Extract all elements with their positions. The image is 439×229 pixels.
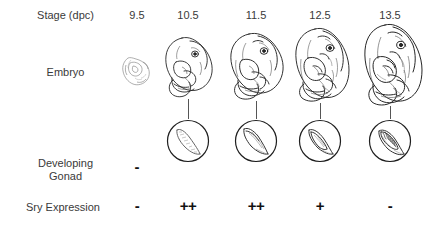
leader-line-13-5 bbox=[390, 106, 391, 119]
stage-header-10-5: 10.5 bbox=[168, 9, 208, 21]
stage-header-9-5: 9.5 bbox=[117, 9, 157, 21]
sry-value-10-5: ++ bbox=[168, 198, 208, 214]
embryo-drawing-13-5 bbox=[357, 22, 427, 110]
sry-value-12-5: + bbox=[300, 198, 340, 214]
gonad-value-9-5: - bbox=[117, 158, 157, 175]
sry-value-11-5: ++ bbox=[236, 198, 276, 214]
stage-header-12-5: 12.5 bbox=[300, 9, 340, 21]
leader-line-12-5 bbox=[320, 103, 321, 119]
row-label-sry-expression: Sry Expression bbox=[8, 201, 118, 214]
embryo-drawing-10-5 bbox=[160, 34, 218, 104]
row-label-stage: Stage (dpc) bbox=[18, 9, 113, 22]
leader-line-11-5 bbox=[256, 101, 257, 119]
embryo-drawing-12-5 bbox=[289, 26, 355, 108]
sry-value-13-5: - bbox=[370, 198, 410, 214]
gonad-circle-11-5 bbox=[234, 119, 278, 167]
stage-header-11-5: 11.5 bbox=[236, 9, 276, 21]
gonad-circle-10-5 bbox=[166, 119, 210, 167]
row-label-developing-gonad: Developing Gonad bbox=[18, 157, 113, 183]
stage-header-13-5: 13.5 bbox=[370, 9, 410, 21]
embryo-drawing-11-5 bbox=[225, 30, 289, 106]
embryo-drawing-9-5 bbox=[119, 52, 153, 96]
leader-line-10-5 bbox=[188, 99, 189, 119]
sry-expression-figure: Stage (dpc) Embryo Developing Gonad Sry … bbox=[0, 0, 439, 229]
sry-value-9-5: - bbox=[117, 198, 157, 214]
gonad-circle-12-5 bbox=[298, 119, 342, 167]
row-label-embryo: Embryo bbox=[18, 66, 113, 79]
gonad-circle-13-5 bbox=[368, 119, 412, 167]
